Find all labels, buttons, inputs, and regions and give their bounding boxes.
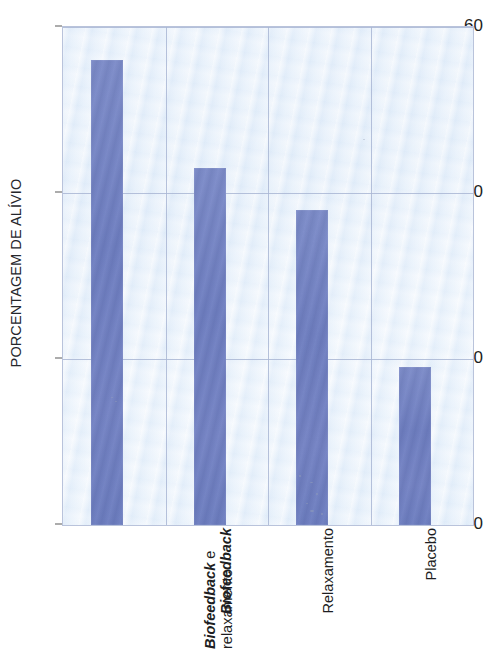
- plot-area: [62, 26, 474, 526]
- scan-speck: [321, 513, 323, 515]
- bar: [296, 210, 328, 525]
- x-tick-label-line: Biofeedback e: [202, 551, 219, 649]
- bar: [91, 60, 123, 525]
- y-tick-mark: [55, 524, 62, 525]
- clipped-title-fragment: ·: [0, 0, 489, 2]
- scan-speck: [111, 397, 113, 398]
- scan-speck: [299, 475, 301, 477]
- scan-speck: [310, 482, 313, 483]
- y-axis-title-text: PORCENTAGEM DE ALÍVIO: [8, 178, 24, 367]
- bar: [399, 367, 431, 525]
- scan-speck: [306, 503, 308, 504]
- x-axis-labels: Biofeedback erelaxamentoBiofeedbackRelax…: [62, 528, 472, 649]
- y-tick-mark: [55, 192, 62, 193]
- y-tick-mark: [55, 26, 62, 27]
- y-tick-mark: [55, 358, 62, 359]
- bar-chart-figure: · PORCENTAGEM DE ALÍVIO 0204060 Biofeedb…: [0, 0, 489, 649]
- scan-speck: [363, 139, 365, 140]
- bar: [194, 168, 226, 525]
- scan-speck: [115, 401, 117, 402]
- y-axis-title: PORCENTAGEM DE ALÍVIO: [2, 0, 30, 545]
- scan-speck: [310, 510, 314, 512]
- gridline-vertical: [371, 27, 372, 525]
- x-tick-label-line: Biofeedback: [218, 528, 235, 614]
- x-tick-label: Placebo: [423, 528, 489, 649]
- x-tick-label-line: Placebo: [423, 528, 440, 580]
- gridline-vertical: [268, 27, 269, 525]
- x-tick-label-line: Relaxamento: [320, 528, 337, 613]
- gridline-vertical: [166, 27, 167, 525]
- scan-speck: [316, 493, 318, 495]
